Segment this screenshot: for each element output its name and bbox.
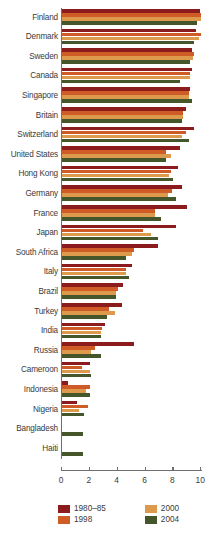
bar-3 [62,413,84,417]
x-tick [172,467,173,471]
bar-3 [62,295,116,299]
bar-group [61,263,217,283]
category-label: France [0,210,61,218]
chart-row: Canada [0,67,217,87]
x-tick-label: 10 [196,476,205,484]
x-axis-line [61,470,202,471]
chart-legend: 1980–85200019982004 [58,505,208,524]
legend-label: 1980–85 [74,505,106,513]
bar-3 [62,119,182,123]
category-label: Singapore [0,92,61,100]
chart-row: Turkey [0,302,217,322]
bar-3 [62,197,176,201]
x-tick-label: 8 [170,476,175,484]
bar-group [61,145,217,165]
category-label: Britain [0,112,61,120]
chart-row: Bangladesh [0,419,217,439]
bar-3 [62,315,107,319]
x-axis: 0246810 [61,470,217,496]
bar-3 [62,60,190,64]
category-label: Switzerland [0,131,61,139]
bar-3 [62,237,158,241]
legend-swatch [145,516,157,524]
chart-row: Japan [0,224,217,244]
bar-3 [62,41,194,45]
x-tick [117,467,118,471]
category-label: Nigeria [0,406,61,414]
category-label: Japan [0,229,61,237]
legend-label: 1998 [74,516,92,524]
x-tick-label: 0 [59,476,64,484]
bar-3 [62,21,197,25]
bar-3 [62,80,180,84]
bar-group [61,400,217,420]
x-tick [89,467,90,471]
bar-group [61,243,217,263]
category-label: Indonesia [0,386,61,394]
bar-3 [62,178,173,182]
legend-item: 2004 [145,516,208,524]
category-label: Russia [0,347,61,355]
bar-group [61,341,217,361]
category-label: Haiti [0,445,61,453]
x-tick [200,467,201,471]
bar-3 [62,393,90,397]
plot-area: FinlandDenmarkSwedenCanadaSingaporeBrita… [0,8,217,470]
category-label: United States [0,151,61,159]
bar-group [61,126,217,146]
bar-group [61,8,217,28]
legend-swatch [58,505,70,513]
x-tick [61,467,62,471]
chart-row: Nigeria [0,400,217,420]
bar-3 [62,452,83,456]
x-tick [145,467,146,471]
bar-group [61,28,217,48]
legend-swatch [145,505,157,513]
bar-group [61,106,217,126]
bar-group [61,361,217,381]
category-label: Finland [0,14,61,22]
bar-3 [62,256,126,260]
chart-row: Sweden [0,47,217,67]
chart-row: Indonesia [0,380,217,400]
chart-row: Germany [0,184,217,204]
chart-row: Denmark [0,28,217,48]
bar-3 [62,139,189,143]
bar-group [61,282,217,302]
bar-3 [62,99,192,103]
category-label: Brazil [0,288,61,296]
chart-row: Finland [0,8,217,28]
bar-group [61,419,217,439]
chart-row: Haiti [0,439,217,459]
legend-item: 1980–85 [58,505,135,513]
legend-item: 1998 [58,516,135,524]
bar-3 [62,335,101,339]
chart-row: Russia [0,341,217,361]
bar-3 [62,354,101,358]
bar-group [61,322,217,342]
category-label: Turkey [0,308,61,316]
chart-row: Italy [0,263,217,283]
category-label: Italy [0,268,61,276]
category-label: Cameroon [0,366,61,374]
legend-item: 2000 [145,505,208,513]
chart-row: Britain [0,106,217,126]
bar-chart: FinlandDenmarkSwedenCanadaSingaporeBrita… [0,0,217,539]
bar-group [61,224,217,244]
category-label: Germany [0,190,61,198]
category-label: Denmark [0,33,61,41]
bar-3 [62,217,161,221]
x-tick-label: 6 [142,476,147,484]
bar-group [61,302,217,322]
category-label: Sweden [0,53,61,61]
bar-group [61,184,217,204]
bar-group [61,67,217,87]
chart-row: India [0,322,217,342]
bar-group [61,165,217,185]
category-label: Canada [0,72,61,80]
category-label: India [0,327,61,335]
chart-row: France [0,204,217,224]
legend-swatch [58,516,70,524]
chart-row: Singapore [0,86,217,106]
chart-row: Cameroon [0,361,217,381]
